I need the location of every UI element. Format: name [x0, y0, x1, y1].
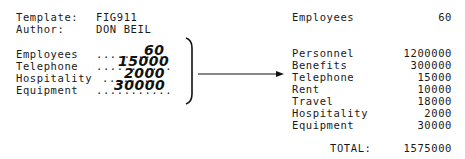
field-label-hospitality: Hospitality: [16, 72, 92, 84]
report-employees-label: Employees: [292, 11, 354, 23]
report-item-label-personnel: Personnel: [292, 47, 354, 59]
report-item-value-rent: 10000: [417, 83, 452, 95]
report-item-value-equipment: 30000: [417, 119, 452, 131]
arrow-head-icon: [276, 71, 284, 77]
template-label: Template:: [16, 11, 78, 23]
report-total-value: 1575000: [404, 142, 452, 154]
field-label-employees: Employees: [16, 48, 78, 60]
report-item-label-rent: Rent: [292, 83, 320, 95]
bracket-icon: [186, 38, 192, 104]
field-label-equipment: Equipment: [16, 84, 78, 96]
author-label: Author:: [16, 23, 64, 35]
report-employees-value: 60: [438, 11, 452, 23]
bracket-arrow-connector: [180, 36, 285, 106]
report-item-value-personnel: 1200000: [404, 47, 452, 59]
report-item-value-hospitality: 2000: [424, 107, 452, 119]
report-item-label-travel: Travel: [292, 95, 334, 107]
output-report: Employees 60 Personnel 1200000 Benefits …: [292, 10, 452, 155]
report-item-label-hospitality: Hospitality: [292, 107, 368, 119]
report-item-value-travel: 18000: [417, 95, 452, 107]
report-item-label-equipment: Equipment: [292, 119, 354, 131]
report-item-value-benefits: 300000: [410, 59, 452, 71]
template-fields: Employees .......... Telephone .........…: [16, 48, 181, 98]
field-label-telephone: Telephone: [16, 60, 78, 72]
report-item-label-telephone: Telephone: [292, 71, 354, 83]
report-total-label: TOTAL:: [330, 142, 372, 154]
template-value: FIG911: [96, 11, 138, 23]
author-value: DON BEIL: [96, 23, 151, 35]
report-item-value-telephone: 15000: [417, 71, 452, 83]
report-item-label-benefits: Benefits: [292, 59, 347, 71]
handwritten-value-equipment[interactable]: 30000: [114, 77, 165, 93]
